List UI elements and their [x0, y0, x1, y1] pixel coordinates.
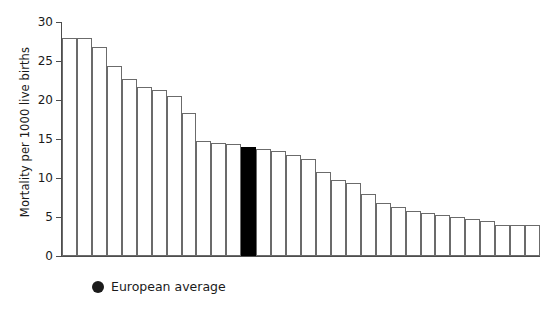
legend-item-label: European average: [111, 279, 226, 294]
bar: [465, 219, 480, 256]
y-tick-label: 25: [38, 54, 53, 68]
y-tick-label: 5: [45, 210, 53, 224]
y-tick-mark: [56, 22, 62, 23]
bar: [286, 155, 301, 256]
bar: [391, 207, 406, 256]
bar: [331, 180, 346, 256]
mortality-bar-chart-figure: Mortality per 1000 live births 051015202…: [0, 0, 552, 317]
bar: [510, 225, 525, 256]
bar-european-average: [241, 147, 256, 256]
bar: [480, 221, 495, 256]
y-tick-label: 30: [38, 15, 53, 29]
bar: [525, 225, 540, 256]
bar: [376, 203, 391, 256]
y-tick-label: 0: [45, 249, 53, 263]
bar: [226, 144, 241, 256]
bar: [421, 213, 436, 256]
y-tick-mark: [56, 256, 62, 257]
bar: [495, 225, 510, 256]
bar: [137, 87, 152, 256]
bar: [361, 194, 376, 256]
european-average-marker-icon: [92, 281, 104, 293]
bar: [77, 38, 92, 256]
bar: [346, 183, 361, 256]
bar: [435, 215, 450, 256]
bar: [301, 159, 316, 257]
bar: [182, 113, 197, 256]
bar: [107, 66, 122, 256]
bar: [92, 47, 107, 256]
y-tick-label: 20: [38, 93, 53, 107]
bar: [406, 211, 421, 256]
bar: [316, 172, 331, 256]
bar: [196, 141, 211, 256]
bar: [122, 79, 137, 256]
bar: [152, 90, 167, 256]
chart-legend: European average: [92, 279, 226, 294]
y-tick-label: 10: [38, 171, 53, 185]
bar: [167, 96, 182, 256]
x-axis-line: [61, 256, 540, 257]
y-axis-title: Mortality per 1000 live births: [14, 2, 36, 262]
bar: [450, 217, 465, 256]
bar: [211, 143, 226, 256]
plot-area: 051015202530: [62, 22, 540, 256]
bar: [256, 149, 271, 256]
bar: [271, 151, 286, 256]
bar: [62, 38, 77, 256]
y-tick-label: 15: [38, 132, 53, 146]
